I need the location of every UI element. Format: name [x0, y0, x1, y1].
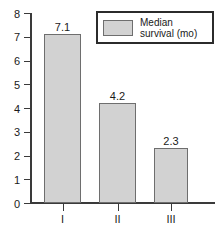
y-axis-tick-label: 4: [14, 103, 20, 114]
legend-label-median-survival: Median survival (mo): [140, 17, 197, 39]
bar-value-label: 2.3: [163, 136, 178, 147]
y-axis-tick-label: 0: [14, 198, 20, 209]
y-axis-line: [30, 13, 32, 203]
bar: 2.3: [154, 148, 188, 203]
y-axis-tick: 6: [24, 61, 30, 62]
bar-value-label: 7.1: [55, 22, 70, 33]
x-axis-tick: [63, 204, 64, 211]
y-axis-tick-label: 7: [14, 32, 20, 43]
y-axis-tick-label: 2: [14, 151, 20, 162]
y-axis-tick-label: 3: [14, 127, 20, 138]
bar-value-label: 4.2: [110, 91, 125, 102]
y-axis-tick-label: 6: [14, 56, 20, 67]
y-axis-tick: 4: [24, 108, 30, 109]
y-axis-tick: 8: [24, 13, 30, 14]
y-axis-tick: 5: [24, 84, 30, 85]
x-axis-tick-label: III: [166, 214, 175, 225]
bar-chart: 012345678 IIIIII 7.14.22.3 Median surviv…: [0, 0, 222, 235]
x-axis-tick: [118, 204, 119, 211]
legend: Median survival (mo): [96, 11, 214, 44]
bar: 4.2: [99, 103, 136, 203]
y-axis-tick: 3: [24, 132, 30, 133]
y-axis-tick-label: 8: [14, 8, 20, 19]
y-axis-tick: 1: [24, 179, 30, 180]
legend-label-line-2: survival (mo): [140, 28, 197, 39]
legend-swatch-median-survival: [103, 20, 133, 36]
bar: 7.1: [44, 34, 81, 203]
x-axis-tick-label: II: [114, 214, 120, 225]
y-axis-tick-label: 1: [14, 174, 20, 185]
x-axis-tick: [171, 204, 172, 211]
y-axis-tick: 2: [24, 156, 30, 157]
y-axis-tick: 7: [24, 37, 30, 38]
x-axis-tick-label: I: [61, 214, 64, 225]
legend-label-line-1: Median: [140, 17, 197, 28]
y-axis-tick-label: 5: [14, 79, 20, 90]
y-axis-tick: 0: [24, 203, 30, 204]
